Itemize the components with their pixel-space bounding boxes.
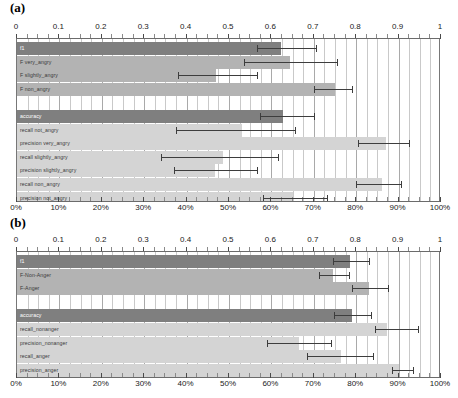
panel-b-bottom-tick-mark bbox=[228, 373, 229, 378]
bar-row-label: recall slightly_angry bbox=[20, 151, 68, 164]
error-bar bbox=[257, 48, 316, 49]
error-cap-high bbox=[409, 140, 410, 147]
panel-a-bottom-tick-mark bbox=[196, 197, 197, 201]
panel-b-bottom-tick-mark bbox=[429, 373, 430, 377]
error-cap-high bbox=[418, 326, 419, 333]
error-cap-low bbox=[267, 340, 268, 347]
error-cap-low bbox=[356, 181, 357, 188]
panel-b-bottom-tick-mark bbox=[323, 373, 324, 377]
error-bar bbox=[260, 116, 314, 117]
error-cap-high bbox=[327, 195, 328, 201]
bar-row-label: f1 bbox=[20, 255, 25, 268]
error-bar bbox=[244, 62, 337, 63]
panel-a-bottom-tick-mark bbox=[101, 197, 102, 202]
panel-a-bottom-tick-mark bbox=[186, 197, 187, 202]
panel-b-bottom-tick-mark bbox=[345, 373, 346, 377]
error-bar bbox=[334, 315, 371, 316]
panel-b-bottom-tick-mark bbox=[175, 373, 176, 377]
panel-b-bottom-axis-ticks bbox=[16, 373, 440, 377]
bar bbox=[17, 350, 341, 363]
panel-a-bottom-tick-2: 20% bbox=[93, 203, 109, 212]
panel-a-bottom-tick-mark bbox=[207, 197, 208, 201]
panel-a-bottom-tick-mark bbox=[175, 197, 176, 201]
panel-a-bottom-tick-0: 0% bbox=[10, 203, 22, 212]
bar bbox=[17, 269, 333, 282]
panel-b-bottom-tick-mark bbox=[122, 373, 123, 377]
panel-b-bottom-tick-mark bbox=[207, 373, 208, 377]
panel-b-bottom-tick-8: 80% bbox=[347, 379, 363, 388]
panel-a-top-tick-3: 0.3 bbox=[138, 22, 149, 31]
panel-a-bottom-tick-mark bbox=[376, 197, 377, 201]
panel-b-bottom-tick-mark bbox=[302, 373, 303, 377]
panel-b-bottom-tick-mark bbox=[292, 373, 293, 377]
error-bar bbox=[375, 329, 417, 330]
bar-row: F very_angry bbox=[17, 56, 439, 69]
panel-b-top-tick-mark bbox=[440, 247, 441, 252]
bar-row: recall_anger bbox=[17, 350, 439, 363]
panel-a-bottom-tick-mark bbox=[80, 197, 81, 201]
panel-b-bottom-tick-mark bbox=[239, 373, 240, 377]
panel-b-bottom-tick-mark bbox=[419, 373, 420, 377]
panel-a-top-tick-5: 0.5 bbox=[222, 22, 233, 31]
panel-a-bottom-tick-mark bbox=[217, 197, 218, 201]
bar bbox=[17, 83, 335, 96]
error-cap-low bbox=[392, 367, 393, 374]
error-cap-low bbox=[260, 113, 261, 120]
panel-b-bottom-tick-mark bbox=[376, 373, 377, 377]
error-cap-high bbox=[373, 353, 374, 360]
panel-a-top-tick-6: 0.6 bbox=[265, 22, 276, 31]
bar-row: F non_angry bbox=[17, 83, 439, 96]
panel-a-top-tick-9: 0.9 bbox=[392, 22, 403, 31]
bar-row: recall slightly_angry bbox=[17, 151, 439, 164]
bar-row-label: precision very_angry bbox=[20, 137, 70, 150]
error-cap-high bbox=[352, 86, 353, 93]
panel-b-bar-rows: f1F-Non-AngerF-Angeraccuracyrecall_nonan… bbox=[17, 252, 439, 377]
panel-b-bottom-tick-mark bbox=[164, 373, 165, 377]
bar-row: accuracy bbox=[17, 309, 439, 322]
bar-row: F-Anger bbox=[17, 282, 439, 295]
error-cap-low bbox=[333, 258, 334, 265]
panel-b-bottom-axis-labels: 0%10%20%30%40%50%60%70%80%90%100% bbox=[16, 379, 440, 395]
bar-row: F slightly_angry bbox=[17, 69, 439, 82]
panel-b-top-tick-5: 0.5 bbox=[222, 235, 233, 244]
panel-a-top-tick-10: 1 bbox=[438, 22, 442, 31]
bar-row: precision_nonanger bbox=[17, 337, 439, 350]
panel-a-bottom-tick-mark bbox=[440, 197, 441, 202]
bar-row: recall non_angry bbox=[17, 178, 439, 191]
error-cap-high bbox=[331, 340, 332, 347]
panel-b-bottom-tick-mark bbox=[143, 373, 144, 378]
error-cap-low bbox=[352, 285, 353, 292]
panel-b-bottom-tick-2: 20% bbox=[93, 379, 109, 388]
error-bar bbox=[161, 157, 278, 158]
error-cap-high bbox=[278, 154, 279, 161]
panel-a-top-tick-mark bbox=[440, 34, 441, 39]
error-cap-low bbox=[263, 195, 264, 201]
panel-a-top-tick-1: 0.1 bbox=[53, 22, 64, 31]
bar bbox=[17, 110, 283, 123]
panel-a-bottom-tick-mark bbox=[408, 197, 409, 201]
panel-b: (b) 00.10.20.30.40.50.60.70.80.91 f1F-No… bbox=[0, 215, 458, 398]
error-cap-low bbox=[358, 140, 359, 147]
error-bar bbox=[358, 143, 409, 144]
panel-b-bottom-tick-mark bbox=[90, 373, 91, 377]
panel-b-bottom-tick-mark bbox=[186, 373, 187, 378]
bar bbox=[17, 323, 387, 336]
error-cap-low bbox=[375, 326, 376, 333]
panel-a-bottom-tick-mark bbox=[249, 197, 250, 201]
panel-a-bottom-tick-mark bbox=[419, 197, 420, 201]
bar bbox=[17, 178, 382, 191]
panel-a-top-tick-8: 0.8 bbox=[350, 22, 361, 31]
panel-a-bottom-tick-4: 40% bbox=[178, 203, 194, 212]
error-cap-low bbox=[257, 45, 258, 52]
panel-b-top-tick-3: 0.3 bbox=[138, 235, 149, 244]
bar-row-label: F-Anger bbox=[20, 282, 39, 295]
error-bar bbox=[356, 184, 401, 185]
panel-b-bottom-tick-mark bbox=[355, 373, 356, 378]
bar-row-label: precision_nonanger bbox=[20, 337, 67, 350]
bar-row-label: F-Non-Anger bbox=[20, 269, 51, 282]
panel-a-bottom-tick-mark bbox=[111, 197, 112, 201]
panel-a-bottom-tick-mark bbox=[260, 197, 261, 201]
error-bar bbox=[333, 261, 369, 262]
panel-a-top-tick-0: 0 bbox=[14, 22, 18, 31]
panel-a-bottom-tick-mark bbox=[239, 197, 240, 201]
